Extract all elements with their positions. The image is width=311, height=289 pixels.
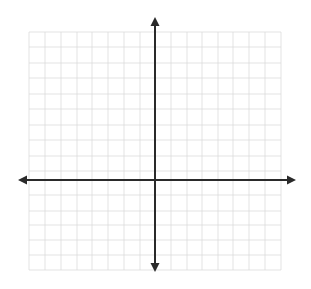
coordinate-plane — [0, 0, 311, 289]
coordinate-plane-svg — [0, 0, 311, 289]
